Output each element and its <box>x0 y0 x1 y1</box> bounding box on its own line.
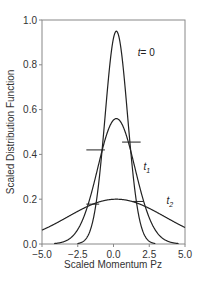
series-label: t1 <box>144 161 151 174</box>
y-tick-label: 0.0 <box>23 239 37 250</box>
y-axis-label: Scaled Distribution Function <box>5 70 16 195</box>
y-tick-label: 0.8 <box>23 59 37 70</box>
y-tick-label: 0.4 <box>23 149 37 160</box>
distribution-chart: 0.00.20.40.60.81.0−5.0−2.50.02.55.0t= 0t… <box>0 0 203 288</box>
plot-frame <box>42 20 185 244</box>
y-tick-label: 0.2 <box>23 194 37 205</box>
curve-t1 <box>54 119 178 244</box>
x-tick-label: −5.0 <box>32 249 52 260</box>
curve-t2 <box>42 199 185 230</box>
y-tick-label: 1.0 <box>23 15 37 26</box>
series-label: t2 <box>166 195 173 208</box>
curve-t-0 <box>77 31 155 243</box>
x-tick-label: 5.0 <box>178 249 192 260</box>
y-tick-label: 0.6 <box>23 104 37 115</box>
x-axis-label: Scaled Momentum Pz <box>64 259 162 270</box>
plot-area: 0.00.20.40.60.81.0−5.0−2.50.02.55.0t= 0t… <box>23 15 192 261</box>
series-label: t= 0 <box>138 47 155 58</box>
